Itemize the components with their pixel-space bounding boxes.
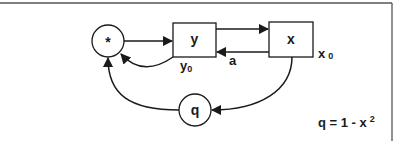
feedback-diagram: * y x q y0 a x0 q = 1 - x2 — [0, 0, 399, 141]
node-q-label: q — [191, 102, 200, 118]
label-y0: y0 — [180, 58, 192, 74]
node-q: q — [179, 94, 211, 126]
label-x0-sub: 0 — [328, 51, 333, 61]
formula-main: q = 1 - x — [318, 115, 368, 130]
node-x: x — [269, 22, 313, 57]
edge-x-to-q — [212, 57, 292, 110]
label-x0: x0 — [318, 46, 333, 61]
node-x-label: x — [287, 31, 295, 47]
formula: q = 1 - x2 — [318, 114, 375, 130]
formula-sup: 2 — [370, 114, 375, 124]
label-x0-base: x — [318, 46, 326, 61]
label-a: a — [229, 53, 237, 68]
node-y: y — [173, 23, 216, 57]
edge-q-to-star — [108, 58, 179, 110]
label-y0-sub: 0 — [187, 64, 192, 74]
edge-y-to-star — [121, 54, 173, 67]
node-star-label: * — [105, 34, 111, 50]
node-star: * — [92, 25, 124, 57]
node-y-label: y — [191, 31, 199, 47]
